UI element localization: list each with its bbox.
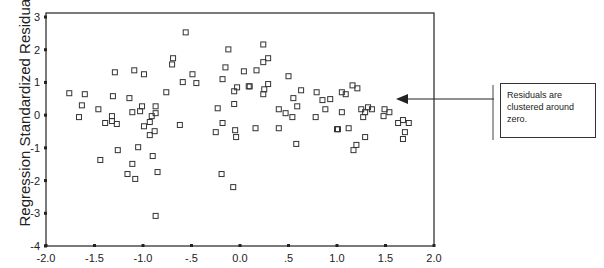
svg-text:2: 2 <box>34 44 40 56</box>
svg-text:2.0: 2.0 <box>426 252 441 264</box>
svg-text:0.0: 0.0 <box>232 252 247 264</box>
svg-text:-2.0: -2.0 <box>37 252 56 264</box>
svg-text:1.5: 1.5 <box>378 252 393 264</box>
svg-text:1.0: 1.0 <box>329 252 344 264</box>
svg-text:-4: -4 <box>30 240 40 252</box>
annotation-callout-box: Residuals are clustered around zero. <box>500 83 596 138</box>
y-axis-label: Regression Standardized Residual <box>16 27 33 227</box>
plot-frame <box>46 13 434 246</box>
svg-text:-1.5: -1.5 <box>85 252 104 264</box>
data-points <box>67 30 412 219</box>
svg-text:-.5: -.5 <box>185 252 198 264</box>
svg-text:-1.0: -1.0 <box>134 252 153 264</box>
svg-text:3: 3 <box>34 11 40 23</box>
svg-text:0: 0 <box>34 109 40 121</box>
svg-text:.5: .5 <box>284 252 293 264</box>
axis-ticks: 3210-1-2-3-4-2.0-1.5-1.0-.50.0.51.01.52.… <box>30 11 441 264</box>
svg-text:1: 1 <box>34 76 40 88</box>
annotation-arrow <box>396 85 494 140</box>
